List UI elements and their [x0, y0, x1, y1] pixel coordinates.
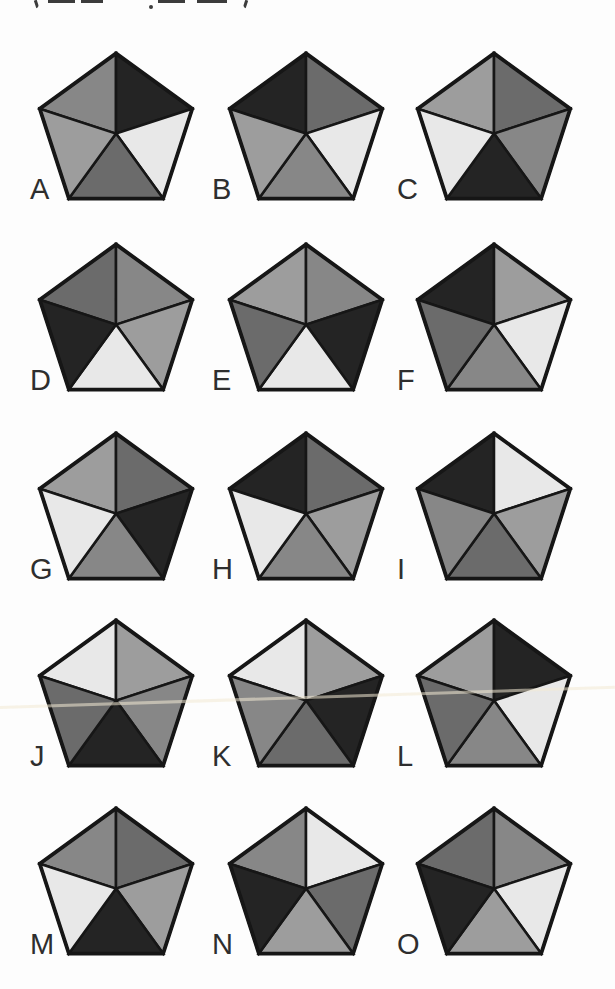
pentagon-L [411, 617, 577, 769]
pentagon-G [33, 430, 199, 582]
pentagon-label-M: M [30, 930, 54, 959]
pentagon-label-O: O [397, 930, 420, 959]
pentagon-label-D: D [30, 366, 51, 395]
pentagon-figure [223, 617, 389, 769]
pentagon-figure [33, 805, 199, 957]
pentagon-M [33, 805, 199, 957]
pentagon-figure [411, 617, 577, 769]
pentagon-J [33, 617, 199, 769]
pentagon-figure [223, 805, 389, 957]
header-glyph-fragment [81, 0, 103, 3]
header-glyph-fragment [158, 0, 185, 3]
pentagon-label-C: C [397, 175, 418, 204]
pentagon-figure [223, 430, 389, 582]
pentagon-figure [33, 430, 199, 582]
pentagon-label-J: J [30, 742, 45, 771]
header-glyph-fragment [34, 0, 39, 8]
pentagon-N [223, 805, 389, 957]
header-glyph-fragment [48, 0, 75, 3]
pentagon-K [223, 617, 389, 769]
pentagon-figure [411, 50, 577, 202]
pentagon-O [411, 805, 577, 957]
pentagon-figure [33, 50, 199, 202]
pentagon-label-N: N [212, 930, 233, 959]
pentagon-C [411, 50, 577, 202]
pentagon-figure [411, 805, 577, 957]
pentagon-D [33, 241, 199, 393]
pentagon-figure [223, 241, 389, 393]
pentagon-E [223, 241, 389, 393]
pentagon-label-I: I [397, 555, 405, 584]
pentagon-label-F: F [397, 366, 415, 395]
pentagon-figure [411, 241, 577, 393]
pentagon-F [411, 241, 577, 393]
pentagon-label-B: B [212, 175, 231, 204]
pentagon-B [223, 50, 389, 202]
pentagon-label-A: A [30, 175, 49, 204]
pentagon-figure [411, 430, 577, 582]
pentagon-figure [33, 241, 199, 393]
pentagon-I [411, 430, 577, 582]
pentagon-figure [33, 617, 199, 769]
pentagon-figure [223, 50, 389, 202]
pentagon-label-L: L [397, 742, 413, 771]
pentagon-label-G: G [30, 555, 53, 584]
pentagon-label-E: E [212, 366, 231, 395]
header-glyph-fragment [243, 0, 248, 8]
pentagon-label-H: H [212, 555, 233, 584]
pentagon-label-K: K [212, 742, 231, 771]
pentagon-H [223, 430, 389, 582]
header-glyph-fragment [197, 0, 227, 3]
pentagon-A [33, 50, 199, 202]
header-glyph-fragment [149, 5, 153, 9]
